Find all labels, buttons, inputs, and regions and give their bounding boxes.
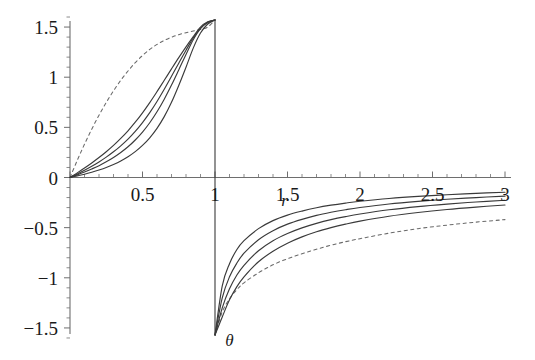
axes-layer [64, 17, 511, 338]
y-tick-label: −0.5 [24, 218, 58, 237]
branch-c-solid-lower [215, 196, 505, 335]
plot-area [0, 0, 535, 360]
branch-e-solid [70, 20, 215, 178]
y-tick-label: 0.5 [34, 118, 58, 137]
branch-a-dashed [70, 20, 215, 178]
y-tick-label: −1 [38, 268, 58, 287]
y-tick-label: 0 [49, 168, 59, 187]
x-tick-label: 3 [500, 185, 510, 204]
branch-c-solid [70, 20, 215, 178]
x-tick-label: 0.5 [131, 185, 155, 204]
y-tick-label: 1 [49, 68, 59, 87]
x-tick-label: 2 [355, 185, 365, 204]
x-tick-label: 1 [210, 185, 220, 204]
x-tick-label: 2.5 [421, 185, 445, 204]
branch-a-dashed-lower [215, 220, 505, 335]
branch-d-solid-lower [215, 200, 505, 335]
y-tick-label: −1.5 [24, 318, 58, 337]
figure-canvas: 0.511.522.531.510.50−0.5−1−1.5 rθ [0, 0, 535, 360]
y-tick-label: 1.5 [34, 18, 58, 37]
branch-e-solid-lower [215, 205, 505, 335]
branch-d-solid [70, 20, 215, 178]
r-axis-annotation: r [281, 191, 288, 208]
branch-b-solid [70, 20, 215, 178]
theta-axis-annotation: θ [225, 331, 233, 348]
